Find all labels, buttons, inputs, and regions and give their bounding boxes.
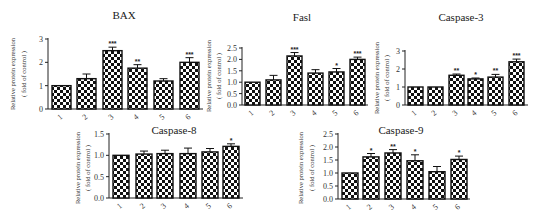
x-tick-label: 6 (351, 108, 360, 117)
bar-5 (429, 167, 445, 200)
bar-rect (408, 87, 423, 105)
x-tick-label: 6 (510, 108, 519, 117)
y-axis-label: Relative protein expression (297, 131, 304, 204)
y-tick-label: 1 (396, 83, 400, 92)
bar-rect (157, 154, 173, 198)
chart-panel-caspase-9: Caspase-9Relative protein expression( fo… (297, 124, 470, 212)
y-tick-label: 1.5 (323, 156, 333, 165)
y-tick-label: 2.5 (323, 130, 333, 139)
significance-marker: * (458, 149, 461, 156)
figure-canvas: BAXRelative protein expression( fold of … (0, 0, 535, 220)
significance-marker: * (474, 71, 477, 78)
x-tick-label: 1 (344, 202, 353, 211)
x-tick-label: 5 (157, 112, 166, 121)
x-tick-label: 2 (365, 202, 374, 211)
bar-2 (77, 74, 96, 109)
chart-panel-fasl: FaslRelative protein expression( fold of… (205, 11, 368, 118)
y-tick-label: 0.5 (94, 173, 104, 182)
bar-4 (308, 70, 323, 105)
x-tick-label: 1 (409, 108, 418, 117)
bar-6: * (223, 137, 239, 198)
chart-title: Caspase-3 (438, 11, 484, 23)
y-axis-label: Relative protein expression (74, 131, 81, 204)
chart-title: Caspase-9 (378, 124, 424, 136)
x-tick-label: 3 (387, 202, 396, 211)
x-tick-label: 4 (409, 202, 418, 211)
bar-6: * (451, 149, 467, 199)
bar-rect (350, 59, 365, 105)
bar-3: ** (385, 143, 401, 199)
bar-3: *** (103, 40, 122, 109)
bar-rect (363, 157, 379, 199)
bar-rect (103, 51, 122, 109)
chart-title: Caspase-8 (151, 124, 197, 136)
bar-rect (329, 72, 344, 105)
bar-rect (202, 152, 218, 198)
x-tick-label: 2 (80, 112, 89, 121)
bar-3: *** (287, 46, 302, 105)
y-tick-label: 1.0 (323, 169, 333, 178)
chart-panel-caspase-3: Caspase-3Relative protein expression( fo… (373, 11, 528, 118)
x-tick-label: 6 (183, 112, 192, 121)
bar-rect (52, 86, 71, 109)
y-axis-label: ( fold of control ) (20, 51, 28, 97)
y-tick-label: 2.5 (227, 44, 237, 53)
x-tick-label: 6 (453, 202, 462, 211)
y-tick-label: 0.0 (94, 194, 104, 203)
y-axis-label: ( fold of control ) (308, 145, 316, 191)
bar-rect (77, 79, 96, 109)
significance-marker: * (335, 62, 338, 69)
bar-4: * (407, 148, 423, 199)
y-tick-label: 0.0 (323, 195, 333, 204)
x-tick-label: 2 (138, 201, 147, 210)
bar-rect (428, 87, 443, 105)
bar-rect (223, 146, 239, 198)
bar-rect (180, 62, 199, 109)
y-tick-label: 1.5 (94, 130, 104, 139)
y-tick-label: 2.0 (227, 55, 237, 64)
significance-marker: ** (135, 58, 141, 65)
x-tick-label: 2 (429, 108, 438, 117)
bar-3: ** (449, 67, 464, 105)
y-tick-label: 3 (39, 35, 43, 44)
bar-rect (429, 172, 445, 199)
significance-marker: *** (353, 50, 361, 57)
y-axis-label: Relative protein expression (373, 41, 380, 114)
bar-rect (245, 82, 260, 105)
bar-4: * (468, 71, 483, 105)
x-tick-label: 4 (469, 108, 478, 117)
bar-2 (136, 151, 152, 198)
bar-1 (113, 155, 129, 198)
significance-marker: * (230, 137, 233, 144)
bar-rect (342, 173, 358, 199)
x-tick-label: 6 (225, 201, 234, 210)
bar-rect (266, 80, 281, 105)
bar-rect (449, 75, 464, 105)
bar-rect (180, 154, 196, 198)
x-tick-label: 3 (159, 201, 168, 210)
bar-rect (154, 81, 173, 109)
western-blot-quantification-figure: BAXRelative protein expression( fold of … (0, 0, 535, 220)
bar-rect (308, 73, 323, 105)
bar-2 (266, 75, 281, 105)
significance-marker: *** (290, 46, 298, 53)
y-tick-label: 0.0 (227, 101, 237, 110)
bar-rect (468, 79, 483, 105)
bar-rect (287, 56, 302, 105)
bar-6: *** (180, 51, 199, 109)
y-tick-label: 1.0 (94, 151, 104, 160)
y-tick-label: 1.5 (227, 67, 237, 76)
y-axis-label: ( fold of control ) (383, 55, 391, 101)
significance-marker: * (414, 148, 417, 155)
y-axis-label: ( fold of control ) (84, 145, 92, 191)
x-tick-label: 1 (55, 112, 64, 121)
y-tick-label: 3 (396, 47, 400, 56)
bar-rect (385, 153, 401, 199)
chart-title: Fasl (293, 11, 311, 23)
y-tick-label: 2 (396, 65, 400, 74)
bar-1 (408, 87, 423, 105)
chart-panel-caspase-8: Caspase-8Relative protein expression( fo… (74, 124, 243, 211)
x-tick-label: 3 (288, 108, 297, 117)
bar-5 (154, 79, 173, 109)
bar-1 (342, 173, 358, 199)
